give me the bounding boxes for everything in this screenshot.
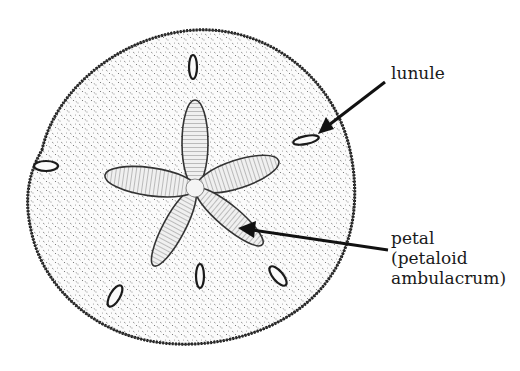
petal-label-line-3: ambulacrum) [391,268,506,288]
lunule-left [34,161,58,171]
petal-label-line-1: petal [391,228,506,248]
lunule-top [189,55,197,79]
lunule-bottom [196,264,204,288]
petal-label-line-2: (petaloid [391,248,506,268]
sand-dollar-diagram [0,0,520,371]
lunule-label: lunule [391,63,445,83]
lunule-label-text: lunule [391,63,445,83]
petal-label: petal (petaloid ambulacrum) [391,228,506,288]
